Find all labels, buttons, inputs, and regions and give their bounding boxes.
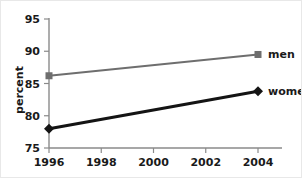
x-tick-label-2000: 2000 [138,156,169,169]
data-point-women-1996 [44,124,54,134]
data-point-men-2004 [255,51,262,58]
data-point-men-1996 [46,72,53,79]
x-tick-label-1996: 1996 [34,156,65,169]
series-women-line [49,91,258,128]
line-chart: percent 75 80 85 90 95 1996 1998 2000 20… [1,1,302,178]
x-tick-label-1998: 1998 [86,156,117,169]
x-tick-label-2002: 2002 [190,156,221,169]
y-tick-label-80: 80 [25,110,41,123]
y-tick-label-95: 95 [25,13,40,26]
y-tick-label-90: 90 [25,45,41,58]
chart-figure: percent 75 80 85 90 95 1996 1998 2000 20… [0,0,302,178]
y-tick-label-75: 75 [25,142,40,155]
series-men [46,51,262,79]
series-men-line [49,54,258,75]
x-tick-label-2004: 2004 [243,156,274,169]
data-point-women-2004 [253,86,263,96]
series-women [44,86,263,133]
y-tick-label-85: 85 [25,78,40,91]
series-label-women: women [268,85,302,98]
series-label-men: men [268,48,295,61]
